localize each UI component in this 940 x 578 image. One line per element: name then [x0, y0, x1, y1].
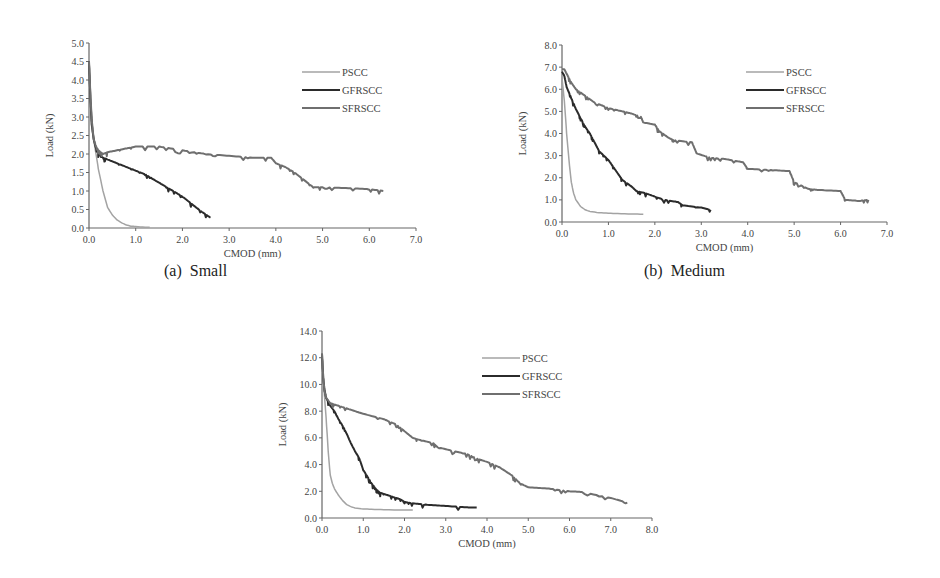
x-tick-label: 1.0 [129, 234, 142, 245]
series-pscc [322, 371, 413, 510]
x-tick-label: 6.0 [834, 228, 847, 239]
y-tick-label: 4.0 [72, 75, 85, 86]
legend-label: GFRSCC [522, 371, 562, 382]
y-tick-label: 6.0 [305, 432, 318, 443]
x-tick-label: 7.0 [881, 228, 894, 239]
legend: PSCCGFRSCCSFRSCC [302, 67, 382, 114]
y-axis-label: Load (kN) [277, 402, 289, 447]
x-tick-label: 2.0 [398, 524, 411, 535]
y-tick-label: 5.0 [72, 38, 85, 49]
x-tick-label: 0.0 [556, 228, 569, 239]
y-tick-label: 0.5 [72, 204, 85, 215]
y-tick-label: 8.0 [305, 406, 318, 417]
x-axis-label: CMOD (mm) [224, 248, 282, 260]
x-tick-label: 7.0 [410, 234, 423, 245]
series-gfrscc [562, 72, 711, 212]
y-tick-label: 8.0 [545, 40, 558, 51]
x-tick-label: 6.0 [363, 234, 376, 245]
y-axis-label: Load (kN) [44, 113, 56, 158]
x-tick-label: 3.0 [440, 524, 453, 535]
y-tick-label: 4.0 [545, 128, 558, 139]
y-tick-label: 0.0 [545, 217, 558, 228]
legend-label: GFRSCC [786, 85, 826, 96]
y-tick-label: 7.0 [545, 62, 558, 73]
y-tick-label: 14.0 [300, 326, 318, 337]
series-gfrscc [89, 62, 211, 218]
y-tick-label: 4.5 [72, 56, 85, 67]
y-tick-label: 0.0 [72, 223, 85, 234]
chart-b: 0.01.02.03.04.05.06.07.00.01.02.03.04.05… [517, 40, 893, 255]
x-tick-label: 8.0 [646, 524, 659, 535]
legend-label: PSCC [786, 67, 812, 78]
legend-label: SFRSCC [342, 103, 381, 114]
x-tick-label: 3.0 [695, 228, 708, 239]
x-tick-label: 5.0 [788, 228, 801, 239]
y-axis-label: Load (kN) [517, 111, 529, 156]
x-tick-label: 4.0 [481, 524, 494, 535]
y-tick-label: 2.0 [72, 149, 85, 160]
y-tick-label: 5.0 [545, 106, 558, 117]
y-tick-label: 6.0 [545, 84, 558, 95]
x-tick-label: 2.0 [176, 234, 189, 245]
y-tick-label: 0.0 [305, 513, 318, 524]
y-tick-label: 4.0 [305, 459, 318, 470]
series-gfrscc [322, 354, 477, 510]
legend-label: SFRSCC [522, 389, 561, 400]
x-tick-label: 1.0 [357, 524, 370, 535]
y-tick-label: 3.0 [545, 150, 558, 161]
y-tick-label: 2.5 [72, 130, 85, 141]
y-tick-label: 1.0 [545, 194, 558, 205]
x-tick-label: 5.0 [522, 524, 535, 535]
y-tick-label: 3.5 [72, 93, 85, 104]
x-tick-label: 5.0 [316, 234, 329, 245]
x-axis-label: CMOD (mm) [696, 242, 754, 254]
legend-label: GFRSCC [342, 85, 382, 96]
x-tick-label: 0.0 [83, 234, 96, 245]
x-tick-label: 7.0 [605, 524, 618, 535]
series-sfrscc [89, 62, 383, 194]
x-axis-label: CMOD (mm) [458, 538, 516, 550]
y-tick-label: 1.0 [72, 186, 85, 197]
legend-label: PSCC [522, 353, 548, 364]
legend-label: SFRSCC [786, 103, 825, 114]
x-tick-label: 2.0 [649, 228, 662, 239]
x-tick-label: 0.0 [316, 524, 329, 535]
legend-label: PSCC [342, 67, 368, 78]
x-tick-label: 4.0 [741, 228, 754, 239]
x-tick-label: 1.0 [602, 228, 615, 239]
y-tick-label: 2.0 [305, 486, 318, 497]
y-tick-label: 1.5 [72, 167, 85, 178]
caption-medium: (b) Medium [644, 262, 725, 280]
chart-a: 0.01.02.03.04.05.06.07.00.00.51.01.52.02… [44, 38, 422, 261]
chart-c: 0.01.02.03.04.05.06.07.08.00.02.04.06.08… [277, 326, 658, 551]
legend: PSCCGFRSCCSFRSCC [482, 353, 562, 400]
x-tick-label: 3.0 [223, 234, 236, 245]
y-tick-label: 2.0 [545, 172, 558, 183]
x-tick-label: 4.0 [270, 234, 283, 245]
legend: PSCCGFRSCCSFRSCC [746, 67, 826, 114]
figure-canvas: 0.01.02.03.04.05.06.07.00.00.51.01.52.02… [0, 0, 940, 578]
y-tick-label: 12.0 [300, 352, 318, 363]
x-tick-label: 6.0 [563, 524, 576, 535]
series-pscc [562, 78, 643, 214]
y-tick-label: 10.0 [300, 379, 318, 390]
y-tick-label: 3.0 [72, 112, 85, 123]
caption-small: (a) Small [164, 262, 227, 280]
